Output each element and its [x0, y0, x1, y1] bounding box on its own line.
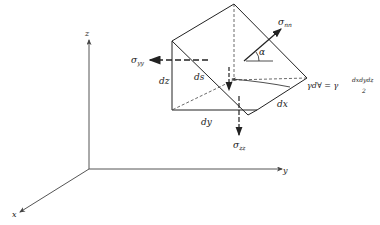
coordinate-axes — [20, 40, 282, 212]
y-axis-label: y — [282, 166, 288, 175]
svg-text:γd∀ = γ: γd∀ = γ — [307, 81, 339, 90]
sigma-zz-label: σzz — [233, 140, 246, 151]
wedge-element-diagram: z y x σyy σzz σnn α dz ds dx dy γd∀ = γ … — [0, 0, 380, 225]
weight-formula: γd∀ = γ dxdydz 2 — [307, 76, 378, 94]
dy-label: dy — [201, 117, 213, 127]
dx-label: dx — [277, 99, 288, 109]
sigma-yy-label: σyy — [131, 55, 145, 67]
x-axis-label: x — [12, 210, 17, 219]
z-axis-label: z — [84, 29, 90, 38]
angle-alpha-label: α — [259, 47, 265, 57]
ds-label: ds — [194, 72, 205, 82]
weight-leader — [232, 79, 290, 87]
svg-text:2: 2 — [361, 87, 366, 94]
sigma-nn-label: σnn — [278, 17, 292, 28]
dz-label: dz — [159, 76, 170, 86]
x-axis — [20, 169, 89, 212]
svg-text:dxdydz: dxdydz — [352, 76, 374, 84]
